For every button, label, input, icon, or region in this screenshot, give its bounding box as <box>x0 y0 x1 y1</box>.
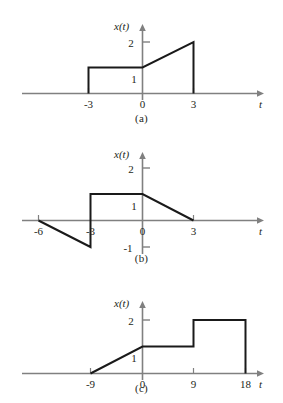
y-axis-label-a: x(t) <box>113 20 130 33</box>
y-tick-label-2-a: 2 <box>128 37 134 49</box>
caption-c: (c) <box>0 382 283 394</box>
y-tick-label-1-b: 1 <box>131 200 137 212</box>
x-tick-label-3-b: 3 <box>191 225 197 237</box>
caption-b: (b) <box>0 252 283 264</box>
y-tick-label-1-a: 1 <box>131 73 137 85</box>
y-axis-arrow-b <box>139 152 146 159</box>
caption-a: (a) <box>0 112 283 124</box>
y-axis-label-c: x(t) <box>113 297 130 310</box>
signal-waveform-a <box>89 42 194 94</box>
x-axis-label-b: t <box>259 225 263 237</box>
x-axis-arrow-b <box>257 217 264 224</box>
x-tick-label-3-a: 3 <box>191 98 197 110</box>
signal-waveform-c <box>91 320 246 374</box>
y-axis-arrow-c <box>139 301 146 308</box>
y-axis-arrow-a <box>139 24 146 31</box>
x-axis-arrow-c <box>257 370 264 377</box>
x-tick-label-0-b: 0 <box>140 225 146 237</box>
x-axis-arrow-a <box>257 90 264 97</box>
x-axis-label-a: t <box>259 98 263 110</box>
x-tick-label-0-a: 0 <box>140 98 146 110</box>
y-tick-label-2-c: 2 <box>128 315 134 327</box>
y-tick-label-2-b: 2 <box>128 163 134 175</box>
signal-figure: x(t) t 2 1 -3 0 3 x(t) t <box>0 0 283 403</box>
plot-panel-b: x(t) t 2 1 -1 -6 -3 0 3 <box>0 134 283 270</box>
y-axis-label-b: x(t) <box>113 148 130 161</box>
plot-b-svg: x(t) t 2 1 -1 -6 -3 0 3 <box>0 134 283 270</box>
y-tick-label-1-c: 1 <box>131 352 137 364</box>
x-tick-label-neg6-b: -6 <box>34 225 44 237</box>
x-tick-label-neg3-b: -3 <box>86 225 96 237</box>
x-tick-label-neg3-a: -3 <box>84 98 94 110</box>
